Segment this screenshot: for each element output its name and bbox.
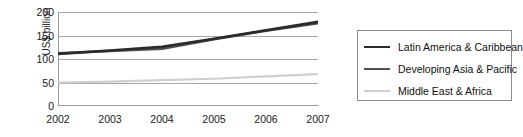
chart-plot-region: US$ billion 050100150200 200220032004200… <box>0 0 340 137</box>
y-axis-tick-label: 50 <box>20 78 54 89</box>
x-axis-tick-label: 2003 <box>90 114 130 125</box>
y-axis-tick-label: 0 <box>20 101 54 112</box>
legend-label: Latin America & Caribbean <box>398 42 523 53</box>
legend-swatch <box>364 46 390 48</box>
y-axis-tick-label: 100 <box>20 54 54 65</box>
legend-item[interactable]: Middle East & Africa <box>364 84 492 98</box>
plot-area <box>58 12 318 106</box>
x-axis-tick-label: 2006 <box>246 114 286 125</box>
legend-label: Middle East & Africa <box>398 86 492 97</box>
series-line <box>58 22 318 54</box>
legend-item[interactable]: Latin America & Caribbean <box>364 40 523 54</box>
x-axis-tick-label: 2007 <box>298 114 338 125</box>
series-lines <box>58 12 318 106</box>
x-axis-tick-labels: 200220032004200520062007 <box>58 110 318 130</box>
x-axis-tick-label: 2002 <box>38 114 78 125</box>
x-axis-tick-label: 2004 <box>142 114 182 125</box>
chart-legend: Latin America & CaribbeanDeveloping Asia… <box>357 30 512 101</box>
legend-swatch <box>364 68 390 70</box>
legend-swatch <box>364 90 390 92</box>
x-axis-tick-label: 2005 <box>194 114 234 125</box>
legend-label: Developing Asia & Pacific <box>398 64 517 75</box>
y-axis-tick-label: 150 <box>20 31 54 42</box>
series-line <box>58 74 318 82</box>
legend-item[interactable]: Developing Asia & Pacific <box>364 62 517 76</box>
y-axis-tick-label: 200 <box>20 7 54 18</box>
